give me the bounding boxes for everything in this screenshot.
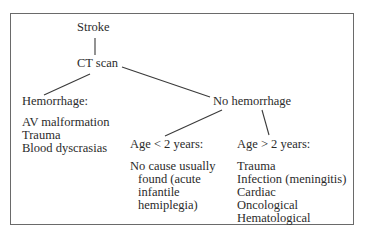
node-no-hemorrhage: No hemorrhage [213, 95, 291, 108]
node-age-under-2: Age < 2 years: [130, 138, 203, 151]
cause-item: Hematological [237, 212, 346, 225]
node-stroke: Stroke [77, 21, 110, 34]
line-ctscan-to-hemorrhage [44, 74, 90, 95]
node-ct-scan: CT scan [77, 57, 118, 70]
node-age-over-2: Age > 2 years: [237, 138, 310, 151]
hemorrhage-causes-list: AV malformation Trauma Blood dyscrasias [22, 116, 109, 155]
cause-item: Blood dyscrasias [22, 142, 109, 155]
node-hemorrhage: Hemorrhage: [22, 95, 88, 108]
cause-item: hemiplegia) [130, 199, 215, 212]
age-under-2-causes-list: No cause usually found (acute infantile … [130, 160, 215, 212]
line-ctscan-to-no-hemorrhage [122, 67, 210, 97]
age-over-2-causes-list: Trauma Infection (meningitis) Cardiac On… [237, 160, 346, 225]
line-no-hemorrhage-to-age-over-2 [262, 110, 269, 135]
line-no-hemorrhage-to-age-under-2 [165, 110, 222, 136]
